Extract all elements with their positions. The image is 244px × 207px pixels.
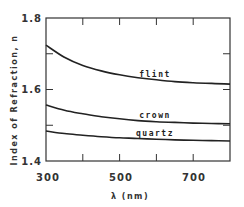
axis-ticks — [46, 18, 230, 161]
y-tick-label-1.6: 1.6 — [21, 84, 42, 95]
curve-crown — [46, 105, 230, 124]
y-tick-label-1.4: 1.4 — [21, 156, 42, 167]
plot-frame — [46, 18, 230, 161]
x-tick-label-700: 700 — [182, 172, 206, 183]
curve-label-quartz: quartz — [136, 129, 174, 138]
curve-label-flint: flint — [139, 69, 171, 79]
x-tick-label-300: 300 — [36, 172, 60, 183]
y-tick-label-1.8: 1.8 — [21, 13, 42, 24]
refraction-chart: 1.8 1.6 1.4 300 500 700 λ (nm) Index of … — [0, 0, 244, 207]
curve-label-crown: crown — [139, 111, 171, 120]
curve-flint — [46, 45, 230, 84]
x-tick-label-500: 500 — [109, 172, 133, 183]
y-axis-title: Index of Refraction, n — [10, 35, 19, 166]
data-curves — [46, 45, 230, 141]
x-axis-title: λ (nm) — [111, 192, 149, 201]
